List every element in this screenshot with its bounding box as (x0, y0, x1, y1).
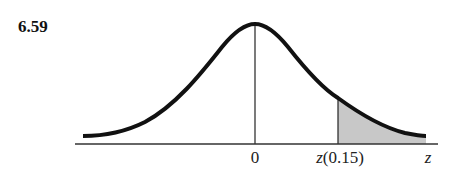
label-zero: 0 (251, 148, 260, 167)
label-cutoff-value: (0.15) (323, 148, 364, 167)
label-axis-variable: z (424, 148, 432, 167)
normal-curve-figure: 0 z(0.15) z (0, 0, 461, 171)
label-cutoff: z(0.15) (315, 148, 364, 167)
